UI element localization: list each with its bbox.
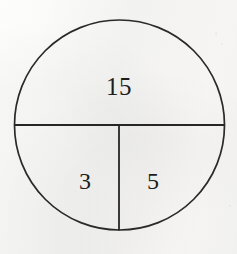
circle-partition-drawing	[0, 0, 237, 254]
region-label-bottom-left: 3	[79, 169, 91, 193]
region-label-bottom-right: 5	[147, 169, 159, 193]
figure-canvas: 15 3 5	[0, 0, 237, 254]
region-label-top: 15	[106, 74, 132, 99]
